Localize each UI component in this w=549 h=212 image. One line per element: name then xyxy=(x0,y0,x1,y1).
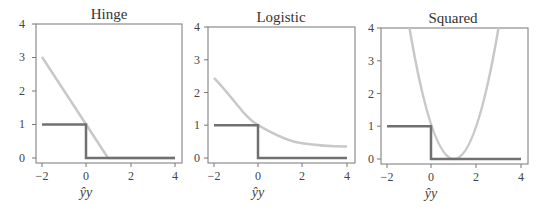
x-axis: −2 0 2 4 ŷy xyxy=(36,163,178,200)
x-tick-label: 2 xyxy=(299,169,305,183)
x-tick-label: 2 xyxy=(473,170,479,184)
x-tick-label: 4 xyxy=(172,169,178,183)
panel-title: Hinge xyxy=(91,6,128,22)
zero-one-loss-line xyxy=(42,125,175,159)
x-tick-label: −2 xyxy=(36,169,49,183)
panel-title: Squared xyxy=(428,10,478,26)
panel-hinge: Hinge 0 1 2 3 4 −2 0 2 4 ŷy xyxy=(19,6,182,200)
y-tick-label: 4 xyxy=(19,17,25,31)
y-tick-label: 2 xyxy=(194,86,200,100)
x-axis: −2 0 2 4 ŷy xyxy=(381,164,524,201)
panel-logistic: Logistic 0 1 2 3 4 −2 0 2 4 ŷy xyxy=(194,9,355,200)
x-tick-label: 4 xyxy=(344,169,350,183)
figure: Hinge 0 1 2 3 4 −2 0 2 4 ŷy Logistic 0 1… xyxy=(0,0,549,212)
y-tick-label: 4 xyxy=(194,20,200,34)
y-axis: 0 1 2 3 4 xyxy=(19,17,36,165)
zero-one-loss-line xyxy=(214,125,347,158)
y-tick-label: 0 xyxy=(194,151,200,165)
y-tick-label: 3 xyxy=(194,53,200,67)
plot-frame xyxy=(36,24,182,163)
x-tick-label: 0 xyxy=(83,169,89,183)
panel-squared: Squared 0 1 2 3 4 −2 0 2 4 ŷy xyxy=(368,10,528,201)
x-tick-label: 4 xyxy=(518,170,524,184)
y-tick-label: 1 xyxy=(19,117,25,131)
y-tick-label: 2 xyxy=(368,87,374,101)
x-tick-label: −2 xyxy=(381,170,394,184)
x-tick-label: 0 xyxy=(428,170,434,184)
y-tick-label: 1 xyxy=(368,119,374,133)
y-tick-label: 3 xyxy=(368,54,374,68)
x-tick-label: −2 xyxy=(208,169,221,183)
plot-frame xyxy=(381,28,528,164)
x-axis-label: ŷy xyxy=(250,185,265,200)
x-tick-label: 2 xyxy=(128,169,134,183)
y-tick-label: 4 xyxy=(368,21,374,35)
y-tick-label: 0 xyxy=(19,151,25,165)
panel-title: Logistic xyxy=(256,9,306,25)
y-tick-label: 0 xyxy=(368,152,374,166)
y-axis: 0 1 2 3 4 xyxy=(368,21,381,166)
logistic-loss-curve xyxy=(214,78,347,147)
squared-loss-curve xyxy=(410,28,499,159)
zero-one-loss-line xyxy=(387,126,521,159)
y-tick-label: 2 xyxy=(19,84,25,98)
y-tick-label: 3 xyxy=(19,50,25,64)
x-axis-label: ŷy xyxy=(78,185,93,200)
hinge-loss-line xyxy=(42,57,175,158)
y-tick-label: 1 xyxy=(194,118,200,132)
x-axis-label: ŷy xyxy=(423,186,438,201)
y-axis: 0 1 2 3 4 xyxy=(194,20,208,165)
x-tick-label: 0 xyxy=(255,169,261,183)
x-axis: −2 0 2 4 ŷy xyxy=(208,163,350,200)
